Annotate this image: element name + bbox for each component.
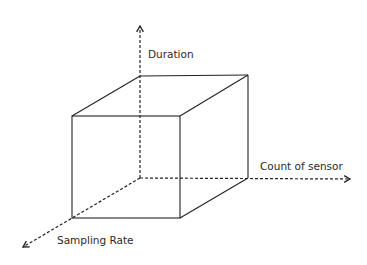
cube-diagram: Duration Count of sensor Sampling Rate [0, 0, 367, 265]
cube-front-face [72, 116, 180, 218]
count-of-sensor-axis [140, 178, 350, 179]
count-of-sensor-label: Count of sensor [260, 160, 343, 172]
sampling-rate-label: Sampling Rate [57, 234, 134, 246]
cube [72, 75, 248, 218]
duration-label: Duration [148, 48, 194, 60]
